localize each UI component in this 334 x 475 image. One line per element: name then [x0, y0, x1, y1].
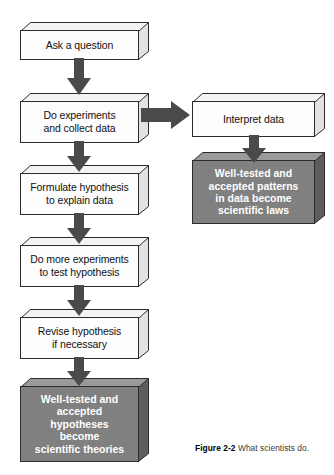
node-front-face: Do experiments and collect data — [20, 101, 139, 143]
arrow-more-experiments-to-revise — [66, 285, 92, 317]
figure-caption: Figure 2-2 What scientists do. — [195, 443, 309, 453]
node-label: Revise hypothesis if necessary — [33, 325, 127, 350]
box-side-face — [138, 378, 149, 462]
box-side-face — [314, 152, 325, 224]
node-label: Do experiments and collect data — [38, 109, 120, 134]
node-front-face: Revise hypothesis if necessary — [20, 317, 139, 359]
node-label: Well-tested and accepted patterns in dat… — [205, 167, 303, 217]
node-do-experiments: Do experiments and collect data — [20, 93, 148, 143]
node-emphasis: scientific theories — [35, 443, 124, 455]
node-scientific-theories: Well-tested and accepted hypotheses beco… — [20, 378, 148, 462]
arrow-revise-to-theories — [66, 357, 92, 387]
arrow-ask-to-experiments — [66, 58, 92, 96]
node-label: Interpret data — [218, 113, 289, 126]
node-interpret-data: Interpret data — [192, 93, 324, 137]
arrow-experiments-to-formulate — [66, 141, 92, 173]
node-front-face: Ask a question — [20, 30, 139, 60]
node-front-face: Interpret data — [192, 101, 315, 137]
arrow-formulate-to-more-experiments — [66, 213, 92, 245]
node-label: Well-tested and accepted hypotheses beco… — [31, 393, 128, 455]
node-front-face: Formulate hypothesis to explain data — [20, 173, 139, 215]
scientific-method-flowchart: Ask a question Do experiments and collec… — [0, 0, 334, 475]
arrow-experiments-to-interpret — [141, 100, 191, 130]
node-front-face: Do more experiments to test hypothesis — [20, 245, 139, 287]
node-emphasis: scientific laws — [218, 204, 289, 216]
node-front-face: Well-tested and accepted hypotheses beco… — [20, 386, 139, 462]
node-label: Formulate hypothesis to explain data — [25, 181, 133, 206]
node-front-face: Well-tested and accepted patterns in dat… — [192, 160, 315, 224]
node-ask-a-question: Ask a question — [20, 22, 148, 60]
node-label: Ask a question — [41, 39, 118, 52]
figure-caption-text: What scientists do. — [238, 443, 309, 453]
figure-caption-number: Figure 2-2 — [195, 443, 236, 453]
node-label: Do more experiments to test hypothesis — [25, 253, 133, 278]
arrow-interpret-to-laws — [241, 135, 267, 164]
